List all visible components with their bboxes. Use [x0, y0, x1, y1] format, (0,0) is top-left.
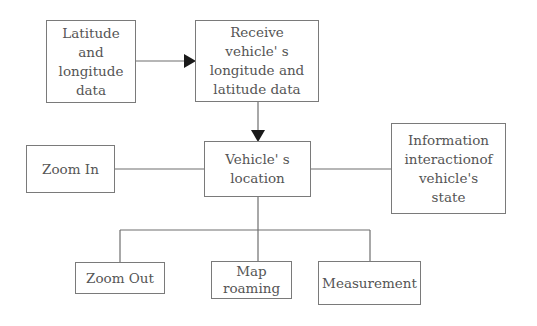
- node-label: Zoom In: [42, 160, 99, 179]
- node-info-interaction: Information interactionof vehicle's stat…: [391, 123, 506, 214]
- node-label: Measurement: [322, 274, 417, 293]
- node-lat-long-data: Latitude and longitude data: [46, 20, 136, 103]
- node-label: Map roaming: [223, 263, 280, 297]
- node-receive-data: Receive vehicle' s longitude and latitud…: [195, 20, 319, 102]
- node-label: Zoom Out: [86, 269, 154, 288]
- node-zoom-in: Zoom In: [26, 145, 115, 193]
- node-zoom-out: Zoom Out: [75, 262, 165, 294]
- node-label: Vehicle' s location: [225, 150, 289, 188]
- node-vehicle-location: Vehicle' s location: [204, 141, 311, 197]
- node-label: Receive vehicle' s longitude and latitud…: [210, 23, 305, 99]
- node-label: Information interactionof vehicle's stat…: [404, 131, 492, 207]
- node-map-roaming: Map roaming: [211, 261, 292, 299]
- node-label: Latitude and longitude data: [59, 24, 124, 100]
- node-measurement: Measurement: [318, 261, 421, 305]
